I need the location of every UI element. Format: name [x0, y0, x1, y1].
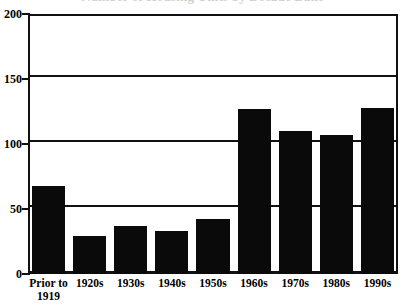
- bar: [238, 109, 271, 274]
- x-tick-label: 1990s: [350, 277, 404, 290]
- chart-title-text: Number of Housing Units by Decade Built: [81, 0, 323, 5]
- x-axis: Prior to19191920s1930s1940s1950s1960s197…: [28, 277, 398, 306]
- bar: [361, 108, 394, 274]
- y-tick-label-200: 200: [0, 8, 22, 20]
- x-tick-label-line1: 1930s: [117, 277, 144, 289]
- x-tick-label-line1: 1920s: [76, 277, 103, 289]
- x-tick-label-line1: 1950s: [199, 277, 226, 289]
- bar: [320, 135, 353, 274]
- bar: [279, 131, 312, 274]
- bar: [196, 219, 229, 274]
- bar: [155, 231, 188, 274]
- bar: [114, 226, 147, 274]
- bar-series: [28, 14, 398, 274]
- x-tick-label-line2: 1919: [21, 290, 76, 303]
- bar: [32, 186, 65, 274]
- x-tick-label-line1: 1940s: [158, 277, 185, 289]
- y-tick-label-150: 150: [0, 73, 22, 85]
- bar-chart: Number of Housing Units by Decade Built …: [0, 0, 404, 306]
- x-tick-label-line1: 1980s: [323, 277, 350, 289]
- bar: [73, 236, 106, 274]
- y-tick-label-0: 0: [0, 268, 22, 280]
- x-tick-label-line1: 1970s: [281, 277, 308, 289]
- chart-title-clipped: Number of Housing Units by Decade Built: [0, 0, 404, 10]
- x-tick-label-line1: 1960s: [240, 277, 267, 289]
- y-tick-label-50: 50: [0, 203, 22, 215]
- y-tick-label-100: 100: [0, 138, 22, 150]
- x-tick-label-line1: 1990s: [364, 277, 391, 289]
